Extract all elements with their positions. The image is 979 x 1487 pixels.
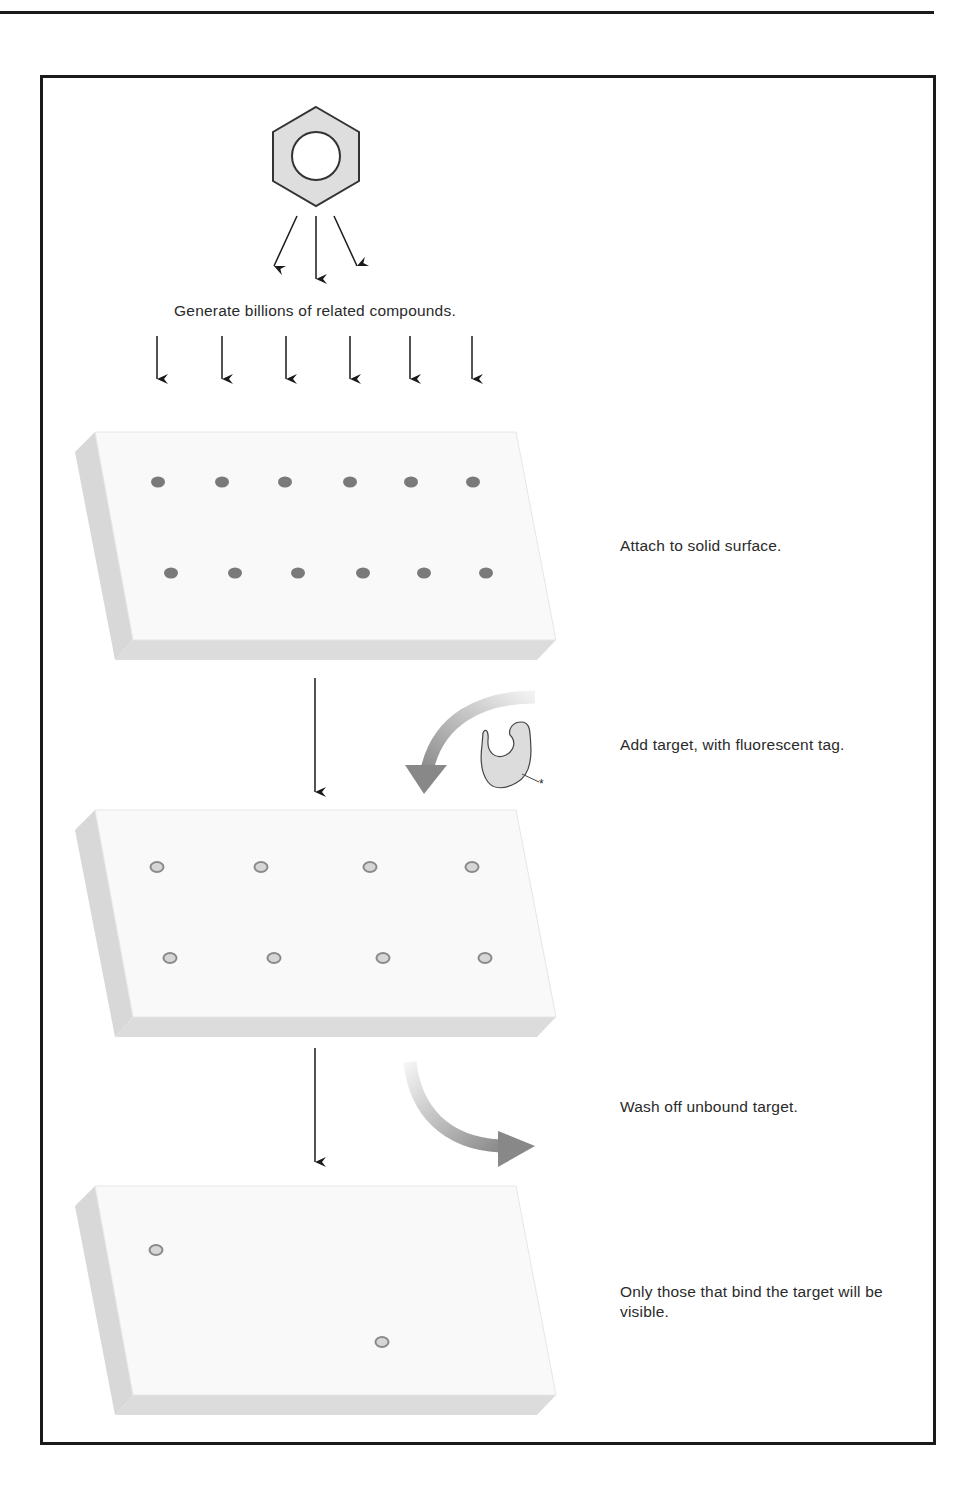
step-wash-label: Wash off unbound target.	[620, 1097, 910, 1117]
step-visible-label: Only those that bind the target will be …	[620, 1282, 910, 1322]
diverge-arrows-icon	[274, 216, 357, 279]
step-generate-label: Generate billions of related compounds.	[140, 301, 490, 321]
compound-hexagon-icon	[273, 107, 359, 206]
wash-off-arrow-icon	[410, 1062, 535, 1167]
down-arrows-row-icon	[157, 336, 472, 379]
target-protein-icon: *	[481, 722, 544, 791]
step-add-target-label: Add target, with fluorescent tag.	[620, 735, 920, 755]
fluorescent-tag-symbol: *	[539, 777, 544, 791]
slab-compounds	[75, 432, 556, 660]
step-attach-label: Attach to solid surface.	[620, 536, 910, 556]
slab-target-added	[75, 810, 556, 1037]
slab-washed	[75, 1186, 556, 1415]
